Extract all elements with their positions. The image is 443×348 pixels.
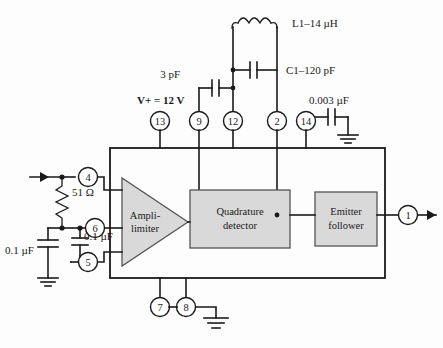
capacitor-01-left-icon — [38, 228, 62, 278]
input-arrow-icon — [30, 172, 62, 182]
capacitor-c1-label: C1–120 pF — [286, 64, 335, 76]
pin-1-label: 1 — [405, 210, 410, 221]
capacitor-3pf-label: 3 pF — [160, 68, 180, 80]
pin-4[interactable]: 4 — [79, 168, 98, 187]
block-emitter-follower: Emitter follower — [315, 192, 377, 246]
quadrature-detector-label-line2: detector — [223, 220, 257, 231]
pin-5-label: 5 — [85, 257, 90, 268]
resistor-51-label: 51 Ω — [72, 186, 94, 198]
wire-pin8-to-ground — [196, 307, 216, 318]
pin-7-label: 7 — [157, 302, 162, 313]
pin-13-label: 13 — [155, 116, 166, 127]
pin-8[interactable]: 8 — [177, 298, 196, 317]
pin-1[interactable]: 1 — [399, 206, 418, 225]
pin-5[interactable]: 5 — [79, 253, 98, 272]
pin-2-label: 2 — [274, 116, 279, 127]
pin-4-label: 4 — [85, 172, 91, 183]
capacitor-0003-icon — [315, 109, 348, 135]
circuit-diagram: 13 9 12 2 14 Ampli- limite — [0, 0, 443, 348]
pin-14-label: 14 — [301, 116, 312, 127]
junction-pin2-internal — [275, 213, 280, 218]
pin-8-label: 8 — [183, 302, 188, 313]
ampli-limiter-label-line2: limiter — [131, 223, 159, 234]
supply-voltage-label: V+ = 12 V — [137, 94, 185, 106]
emitter-follower-label-line1: Emitter — [330, 206, 362, 217]
pin-13[interactable]: 13 — [151, 112, 170, 131]
pin-12-label: 12 — [228, 116, 239, 127]
pin-2[interactable]: 2 — [268, 112, 287, 131]
capacitor-0003-label: 0.003 µF — [309, 94, 349, 106]
capacitor-c1-icon — [233, 62, 277, 78]
inductor-l1-label: L1–14 µH — [292, 17, 338, 29]
pin-9-label: 9 — [196, 116, 201, 127]
schematic-canvas: 13 9 12 2 14 Ampli- limite — [0, 0, 443, 348]
ground-symbol-0003-icon — [338, 135, 358, 143]
capacitor-01-left-label: 0.1 µF — [5, 244, 34, 256]
capacitor-01-upper-label: 0.1 µF — [84, 230, 113, 242]
ground-symbol-bottom-icon — [204, 318, 228, 328]
pin-12[interactable]: 12 — [224, 112, 243, 131]
block-ampli-limiter: Ampli- limiter — [122, 178, 188, 266]
ground-symbol-left-icon — [38, 278, 58, 286]
pin-9[interactable]: 9 — [190, 112, 209, 131]
quadrature-detector-label-line1: Quadrature — [216, 206, 264, 217]
inductor-l1-icon — [232, 18, 277, 28]
output-arrow-icon — [418, 210, 436, 220]
resistor-51-icon — [56, 177, 68, 228]
ampli-limiter-label-line1: Ampli- — [130, 210, 161, 221]
block-quadrature-detector: Quadrature detector — [190, 190, 290, 248]
capacitor-3pf-icon — [199, 80, 233, 96]
emitter-follower-label-line2: follower — [328, 220, 364, 231]
pin-14[interactable]: 14 — [297, 112, 316, 131]
pin-7[interactable]: 7 — [151, 298, 170, 317]
